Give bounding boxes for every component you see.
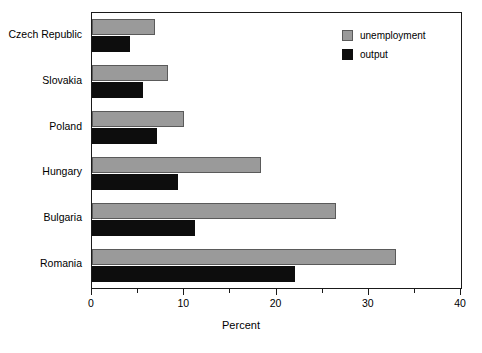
bar-unemployment-romania [92, 249, 396, 265]
category-label-romania: Romania [40, 258, 82, 269]
bar-unemployment-poland [92, 111, 184, 127]
bar-unemployment-czech-republic [92, 19, 155, 35]
category-label-bulgaria: Bulgaria [43, 212, 82, 223]
bar-unemployment-slovakia [92, 65, 168, 81]
bar-unemployment-bulgaria [92, 203, 336, 219]
bar-output-romania [92, 266, 295, 282]
legend-label-unemployment: unemployment [360, 30, 426, 41]
legend-swatch-output [342, 49, 353, 60]
bar-output-hungary [92, 174, 178, 190]
chart-legend: unemployment output [342, 28, 426, 66]
x-axis-title: Percent [0, 319, 482, 331]
bar-unemployment-hungary [92, 157, 261, 173]
x-tick-minor-15 [229, 289, 230, 293]
x-tick-label-0: 0 [88, 297, 94, 309]
legend-item-output: output [342, 47, 426, 62]
x-tick-40 [460, 289, 461, 295]
x-tick-0 [91, 289, 92, 295]
category-label-czech-republic: Czech Republic [8, 29, 82, 40]
x-tick-30 [368, 289, 369, 295]
x-tick-minor-5 [137, 289, 138, 293]
category-label-hungary: Hungary [42, 166, 82, 177]
x-tick-label-40: 40 [454, 297, 466, 309]
category-label-slovakia: Slovakia [42, 75, 82, 86]
category-label-poland: Poland [49, 121, 82, 132]
x-tick-20 [276, 289, 277, 295]
x-tick-label-30: 30 [362, 297, 374, 309]
legend-label-output: output [360, 49, 388, 60]
x-tick-10 [183, 289, 184, 295]
legend-swatch-unemployment [342, 30, 353, 41]
x-tick-minor-25 [322, 289, 323, 293]
x-tick-label-10: 10 [177, 297, 189, 309]
bar-output-poland [92, 128, 157, 144]
bar-chart: Czech RepublicSlovakiaPolandHungaryBulga… [0, 0, 482, 353]
legend-item-unemployment: unemployment [342, 28, 426, 43]
x-tick-label-20: 20 [270, 297, 282, 309]
bar-output-czech-republic [92, 36, 130, 52]
bar-output-slovakia [92, 82, 143, 98]
category-axis-labels: Czech RepublicSlovakiaPolandHungaryBulga… [0, 12, 86, 289]
x-tick-minor-35 [414, 289, 415, 293]
bar-output-bulgaria [92, 220, 195, 236]
